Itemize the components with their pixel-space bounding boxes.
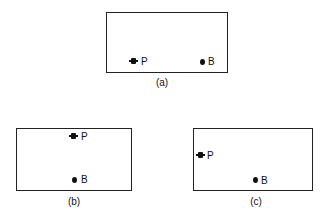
b-label: B <box>81 175 88 185</box>
p-marker-icon <box>129 58 138 64</box>
b-dot-icon <box>253 177 258 183</box>
b-label: B <box>261 176 268 186</box>
caption-c: (c) <box>241 197 271 207</box>
b-dot-icon <box>72 177 77 183</box>
p-label: P <box>81 132 88 142</box>
caption-b: (b) <box>59 197 89 207</box>
b-dot-icon <box>200 59 205 65</box>
p-label: P <box>207 151 214 161</box>
p-marker-icon <box>69 133 78 139</box>
p-label: P <box>141 57 148 67</box>
b-label: B <box>208 57 215 67</box>
p-marker-icon <box>196 152 205 158</box>
caption-a: (a) <box>147 78 177 88</box>
